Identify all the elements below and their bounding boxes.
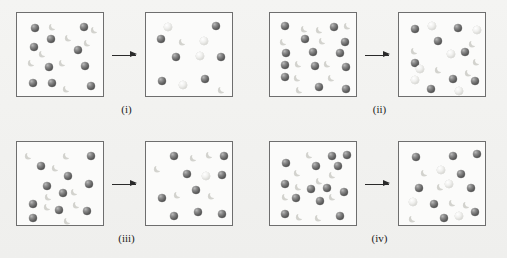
light-crescent-particle: [67, 33, 74, 40]
light-crescent-particle: [318, 176, 325, 183]
dark-sphere-particle: [440, 214, 448, 222]
light-sphere-particle: [179, 81, 187, 89]
light-sphere-particle: [437, 166, 445, 174]
dark-sphere-particle: [30, 43, 38, 51]
dark-sphere-particle: [218, 171, 226, 179]
dark-sphere-particle: [315, 83, 323, 91]
light-crescent-particle: [192, 153, 199, 160]
dark-sphere-particle: [157, 35, 165, 43]
light-crescent-particle: [471, 39, 478, 46]
light-crescent-particle: [346, 21, 353, 28]
light-crescent-particle: [210, 191, 217, 198]
light-crescent-particle: [73, 187, 80, 194]
dark-sphere-particle: [281, 22, 289, 30]
dark-sphere-particle: [85, 180, 93, 188]
light-crescent-particle: [317, 213, 324, 220]
dark-sphere-particle: [87, 152, 95, 160]
light-sphere-particle: [428, 22, 436, 30]
dark-sphere-particle: [340, 188, 348, 196]
dark-sphere-particle: [282, 49, 290, 57]
light-crescent-particle: [66, 216, 73, 223]
light-crescent-particle: [331, 170, 338, 177]
light-crescent-particle: [65, 151, 72, 158]
light-sphere-particle: [411, 76, 419, 84]
light-crescent-particle: [423, 168, 430, 175]
dark-sphere-particle: [430, 200, 438, 208]
dark-sphere-particle: [220, 152, 228, 160]
dark-sphere-particle: [334, 162, 342, 170]
dark-sphere-particle: [45, 63, 53, 71]
panel-label-ii: (ii): [253, 103, 506, 115]
dark-sphere-particle: [172, 53, 180, 61]
light-crescent-particle: [330, 73, 337, 80]
dark-sphere-particle: [48, 79, 56, 87]
light-crescent-particle: [47, 192, 54, 199]
reactant-box-ii: [269, 12, 357, 97]
panel-label-iv: (iv): [253, 232, 506, 244]
light-sphere-particle: [416, 65, 424, 73]
dark-sphere-particle: [449, 152, 457, 160]
figure-sheet: (i)(ii)(iii)(iv): [0, 0, 507, 258]
product-box-ii: [398, 12, 486, 97]
reaction-arrow-iii: [112, 184, 136, 185]
light-crescent-particle: [220, 85, 227, 92]
dark-sphere-particle: [194, 208, 202, 216]
dark-sphere-particle: [311, 62, 319, 70]
light-crescent-particle: [51, 22, 58, 29]
dark-sphere-particle: [427, 85, 435, 93]
light-crescent-particle: [181, 37, 188, 44]
dark-sphere-particle: [449, 75, 457, 83]
dark-sphere-particle: [183, 170, 191, 178]
dark-sphere-particle: [471, 77, 479, 85]
dark-sphere-particle: [328, 152, 336, 160]
dark-sphere-particle: [281, 180, 289, 188]
dark-sphere-particle: [309, 48, 317, 56]
dark-sphere-particle: [192, 186, 200, 194]
light-crescent-particle: [284, 192, 291, 199]
light-crescent-particle: [437, 65, 444, 72]
light-crescent-particle: [475, 57, 482, 64]
light-crescent-particle: [27, 151, 34, 158]
light-crescent-particle: [30, 58, 37, 65]
light-crescent-particle: [331, 192, 338, 199]
light-sphere-particle: [473, 26, 481, 34]
light-crescent-particle: [298, 212, 305, 219]
dark-sphere-particle: [47, 35, 55, 43]
light-crescent-particle: [297, 59, 304, 66]
light-sphere-particle: [164, 23, 172, 31]
dark-sphere-particle: [59, 189, 67, 197]
light-crescent-particle: [303, 24, 310, 31]
light-crescent-particle: [413, 46, 420, 53]
dark-sphere-particle: [454, 24, 462, 32]
light-sphere-particle: [202, 172, 210, 180]
dark-sphere-particle: [434, 37, 442, 45]
reaction-panel-ii: (ii): [253, 0, 506, 129]
product-box-i: [145, 12, 233, 97]
dark-sphere-particle: [80, 23, 88, 31]
dark-sphere-particle: [170, 152, 178, 160]
light-crescent-particle: [465, 200, 472, 207]
light-crescent-particle: [75, 200, 82, 207]
light-crescent-particle: [282, 37, 289, 44]
reactant-box-iv: [269, 141, 357, 226]
product-box-iii: [145, 141, 233, 226]
dark-sphere-particle: [158, 77, 166, 85]
light-crescent-particle: [61, 58, 68, 65]
light-crescent-particle: [156, 164, 163, 171]
dark-sphere-particle: [29, 79, 37, 87]
light-crescent-particle: [93, 25, 100, 32]
light-crescent-particle: [86, 38, 93, 45]
dark-sphere-particle: [74, 46, 82, 54]
dark-sphere-particle: [336, 212, 344, 220]
dark-sphere-particle: [64, 172, 72, 180]
reaction-panel-iii: (iii): [0, 129, 253, 258]
light-crescent-particle: [65, 84, 72, 91]
dark-sphere-particle: [87, 82, 95, 90]
light-crescent-particle: [318, 25, 325, 32]
dark-sphere-particle: [281, 210, 289, 218]
dark-sphere-particle: [281, 73, 289, 81]
dark-sphere-particle: [212, 22, 220, 30]
light-crescent-particle: [326, 59, 333, 66]
product-box-iv: [398, 141, 486, 226]
panel-label-i: (i): [0, 103, 253, 115]
